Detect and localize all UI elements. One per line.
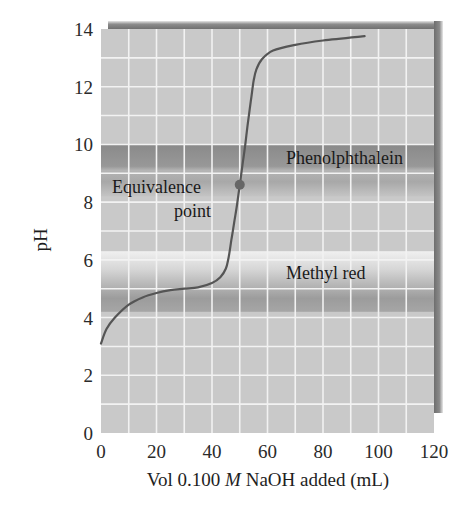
x-axis-label: Vol 0.100 M NaOH added (mL) bbox=[147, 469, 389, 491]
y-tick-label: 2 bbox=[84, 365, 94, 386]
frame-right-shadow bbox=[434, 21, 443, 413]
x-tick-label: 20 bbox=[147, 441, 166, 462]
y-tick-label: 14 bbox=[74, 19, 94, 40]
x-tick-label: 0 bbox=[96, 441, 106, 462]
frame-top-shadow bbox=[108, 21, 442, 29]
y-tick-label: 12 bbox=[74, 77, 93, 98]
y-axis-ticks: 02468101214 bbox=[74, 19, 94, 444]
y-tick-label: 0 bbox=[84, 423, 94, 444]
x-tick-label: 100 bbox=[364, 441, 393, 462]
equivalence-point-label-line1: Equivalence bbox=[112, 177, 201, 197]
y-tick-label: 10 bbox=[74, 134, 93, 155]
x-tick-label: 80 bbox=[314, 441, 333, 462]
x-axis-ticks: 020406080100120 bbox=[96, 441, 448, 462]
phenolphthalein-label: Phenolphthalein bbox=[286, 148, 403, 168]
y-axis-label: pH bbox=[30, 228, 51, 252]
y-tick-label: 6 bbox=[84, 250, 94, 271]
y-tick-label: 8 bbox=[84, 192, 94, 213]
x-tick-label: 40 bbox=[203, 441, 222, 462]
titration-chart: 02468101214 020406080100120 Equivalence … bbox=[0, 0, 466, 516]
equivalence-point-marker bbox=[235, 180, 245, 190]
x-tick-label: 120 bbox=[420, 441, 449, 462]
y-tick-label: 4 bbox=[84, 308, 94, 329]
equivalence-point-label-line2: point bbox=[174, 201, 211, 221]
methyl-red-label: Methyl red bbox=[286, 263, 365, 283]
x-tick-label: 60 bbox=[258, 441, 277, 462]
